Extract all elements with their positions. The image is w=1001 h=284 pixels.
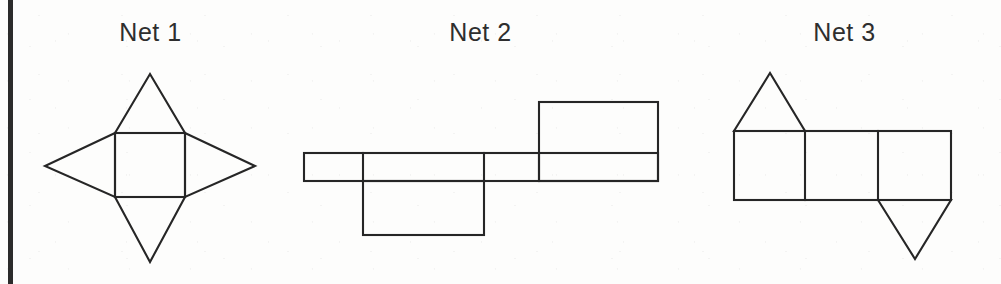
net-3-figure — [0, 0, 1001, 284]
worksheet-page: Net 1 Net 2 Net 3 — [0, 0, 1001, 284]
net-3-square-strip — [734, 131, 951, 200]
net-3-drawing — [0, 0, 1001, 284]
net-3-triangle-top — [734, 73, 805, 131]
net-3-triangle-bottom — [878, 200, 951, 259]
